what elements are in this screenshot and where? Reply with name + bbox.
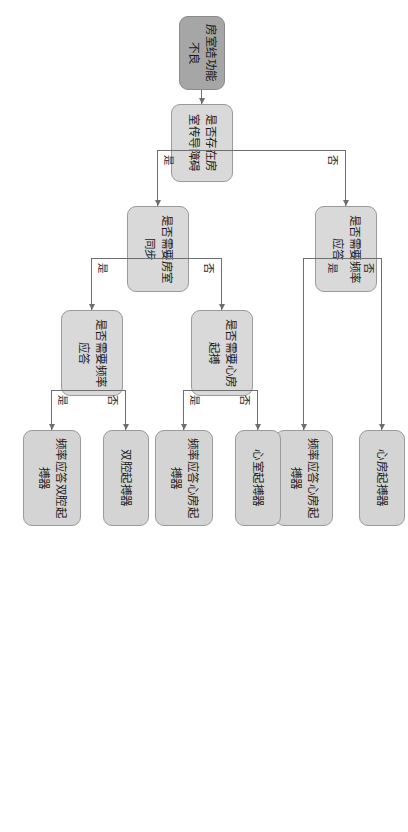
edge-atrial-no-arrow <box>256 424 262 430</box>
node-question-rate-response-bottom[interactable]: 是否需要频率应答 <box>61 310 123 396</box>
edge-conduction-no-b <box>202 150 346 151</box>
edge-rate-top-yes-label: 是 <box>326 263 341 274</box>
edge-rate-top-yes-c <box>303 258 304 430</box>
edge-conduction-no-label: 否 <box>326 155 341 166</box>
edge-rate-bottom-no-arrow <box>124 424 130 430</box>
edge-atrial-yes-label: 是 <box>188 395 203 406</box>
edge-rate-bottom-no-b <box>92 390 126 391</box>
edge-rate-top-yes-b <box>304 258 346 259</box>
edge-conduction-yes-b <box>158 150 202 151</box>
edge-rate-bottom-yes-label: 是 <box>56 395 71 406</box>
node-root-av-node-dysfunction[interactable]: 房室结功能不良 <box>179 16 225 90</box>
node-question-av-synchrony[interactable]: 是否需要房室同步 <box>127 206 189 292</box>
edge-conduction-yes-arrow <box>156 200 162 206</box>
edge-rate-top-no-arrow <box>380 424 386 430</box>
edge-sync-yes-arrow <box>90 304 96 310</box>
edge-conduction-yes-c <box>157 150 158 206</box>
edge-rate-top-no-c <box>381 258 382 430</box>
flowchart-canvas: 房室结功能不良 是否存在房室传导障碍 是否需要频率应答 心房起搏器 频率应答心房… <box>0 0 408 832</box>
node-question-atrial-pacing[interactable]: 是否需要心房起搏 <box>191 310 253 396</box>
edge-root-to-conduction-arrow <box>200 98 206 104</box>
diagram-rotation-wrapper: 房室结功能不良 是否存在房室传导障碍 是否需要频率应答 心房起搏器 频率应答心房… <box>0 0 408 832</box>
node-leaf-ventricular-pacemaker[interactable]: 心室起搏器 <box>235 430 281 526</box>
node-leaf-rate-response-atrial-pacemaker-2[interactable]: 频率应答心房起搏器 <box>155 430 213 526</box>
edge-rate-bottom-yes-b <box>52 390 92 391</box>
edge-sync-no-b <box>158 258 222 259</box>
edge-atrial-yes-arrow <box>182 424 188 430</box>
edge-sync-yes-b <box>92 258 158 259</box>
edge-conduction-no-arrow <box>344 200 350 206</box>
edge-sync-no-c <box>221 258 222 310</box>
edge-sync-no-label: 否 <box>202 263 217 274</box>
node-leaf-atrial-pacemaker[interactable]: 心房起搏器 <box>359 430 405 526</box>
node-leaf-rate-response-atrial-pacemaker[interactable]: 频率应答心房起搏器 <box>275 430 333 526</box>
edge-sync-no-arrow <box>220 304 226 310</box>
node-question-conduction-block[interactable]: 是否存在房室传导障碍 <box>171 104 233 182</box>
edge-rate-top-no-b <box>346 258 382 259</box>
edge-sync-yes-c <box>91 258 92 310</box>
node-leaf-dual-chamber-pacemaker[interactable]: 双腔起搏器 <box>103 430 149 526</box>
node-leaf-rate-response-dual-chamber-pacemaker[interactable]: 频率应答双腔起搏器 <box>23 430 81 526</box>
edge-atrial-no-label: 否 <box>238 395 253 406</box>
edge-atrial-yes-b <box>184 390 222 391</box>
node-question-rate-response-top[interactable]: 是否需要频率应答 <box>315 206 377 292</box>
edge-conduction-no-c <box>345 150 346 206</box>
edge-rate-bottom-yes-arrow <box>50 424 56 430</box>
edge-rate-top-yes-arrow <box>302 424 308 430</box>
edge-sync-yes-label: 是 <box>96 263 111 274</box>
edge-conduction-yes-label: 是 <box>162 155 177 166</box>
edge-rate-bottom-no-label: 否 <box>106 395 121 406</box>
edge-atrial-no-b <box>222 390 258 391</box>
edge-rate-top-no-label: 否 <box>362 263 377 274</box>
